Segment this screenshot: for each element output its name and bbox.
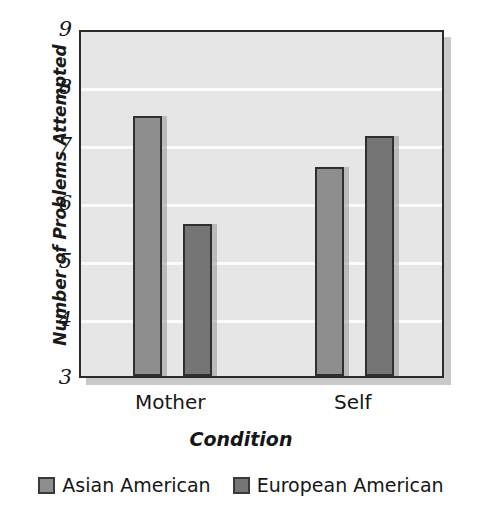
bar-self-european-american xyxy=(365,136,394,376)
gridline-8 xyxy=(81,88,442,91)
y-axis-tick-6: 6 xyxy=(46,193,72,214)
legend-item-asian-american: Asian American xyxy=(38,474,210,496)
plot-area xyxy=(79,30,444,378)
legend-label-european-american: European American xyxy=(257,474,444,496)
y-axis-tick-8: 8 xyxy=(46,77,72,98)
bar-chart: Number of Problems Attempted 3456789 Mot… xyxy=(0,0,482,527)
y-axis-tick-9: 9 xyxy=(46,19,72,40)
bar-mother-asian-american xyxy=(133,116,162,376)
bar-mother-european-american xyxy=(183,224,212,376)
legend-label-asian-american: Asian American xyxy=(62,474,210,496)
legend-swatch-asian-american xyxy=(38,477,55,494)
x-axis-tick-mother: Mother xyxy=(90,390,250,414)
x-axis-title: Condition xyxy=(0,428,482,450)
legend-swatch-european-american xyxy=(233,477,250,494)
x-axis-tick-self: Self xyxy=(273,390,433,414)
y-axis-tick-4: 4 xyxy=(46,309,72,330)
y-axis-tick-5: 5 xyxy=(46,251,72,272)
bar-self-asian-american xyxy=(315,167,344,376)
y-axis-tick-3: 3 xyxy=(46,367,72,388)
y-axis-tick-7: 7 xyxy=(46,135,72,156)
legend-item-european-american: European American xyxy=(233,474,444,496)
chart-legend: Asian AmericanEuropean American xyxy=(0,474,482,496)
